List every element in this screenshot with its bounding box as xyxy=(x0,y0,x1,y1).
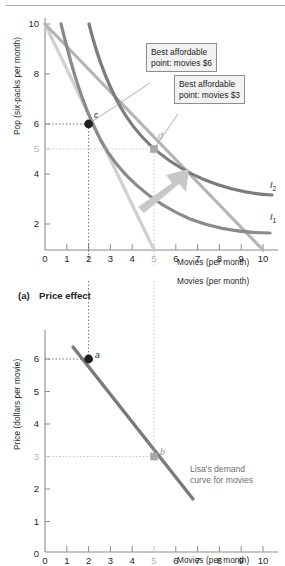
bottom-y-axis-title: Price (dollars per movie) xyxy=(13,359,22,450)
bottom-xtick-10: 10 xyxy=(255,555,271,566)
bottom-xtick-2: 2 xyxy=(81,555,97,566)
bottom-xtick-7: 7 xyxy=(190,555,206,566)
bottom-ytick-4: 4 xyxy=(25,418,39,429)
point-label-a: a xyxy=(95,350,100,360)
bottom-ytick-6: 6 xyxy=(25,353,39,364)
demand-curve-line xyxy=(73,347,193,499)
demand-curve-label-line1: Lisa's demand xyxy=(190,464,253,475)
bottom-xtick-4: 4 xyxy=(124,555,140,566)
demand-curve-label-line2: curve for movies xyxy=(190,475,253,486)
data-point-a xyxy=(84,355,93,364)
bottom-axes xyxy=(45,330,278,552)
bottom-xtick-0: 0 xyxy=(37,555,53,566)
demand-curve-label: Lisa's demand curve for movies xyxy=(190,464,253,486)
bottom-xtick-9: 9 xyxy=(233,555,249,566)
guides-point-a xyxy=(45,281,89,359)
bottom-x-ticks xyxy=(67,546,263,552)
bottom-ytick-2: 2 xyxy=(25,483,39,494)
data-point-b xyxy=(150,453,158,461)
bottom-ytick-3: 3 xyxy=(25,451,39,462)
bottom-ytick-5: 5 xyxy=(25,386,39,397)
top-x-axis-title-repeat: Movies (per month) xyxy=(177,277,249,286)
bottom-y-ticks xyxy=(45,359,50,522)
bottom-xtick-6: 6 xyxy=(168,555,184,566)
point-label-b: b xyxy=(160,447,165,457)
bottom-ytick-1: 1 xyxy=(25,516,39,527)
bottom-xtick-3: 3 xyxy=(102,555,118,566)
bottom-xtick-5: 5 xyxy=(146,555,162,566)
bottom-xtick-1: 1 xyxy=(59,555,75,566)
bottom-xtick-8: 8 xyxy=(211,555,227,566)
